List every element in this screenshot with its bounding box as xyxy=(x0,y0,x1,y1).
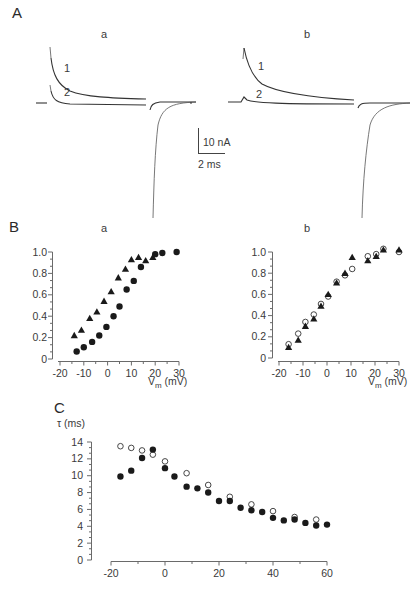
y-tick-label: 8 xyxy=(77,486,83,498)
trace-a-tail-small xyxy=(150,102,196,110)
x-tick-label: -10 xyxy=(295,367,310,379)
data-point-triangle xyxy=(71,332,78,338)
y-tick-label: 10 xyxy=(71,469,83,481)
x-tick-label: 0 xyxy=(324,367,330,379)
subpanel-label-b: b xyxy=(304,222,310,234)
subpanel-label-a: a xyxy=(101,28,108,40)
data-point-triangle xyxy=(325,291,332,297)
y-tick-label: 6 xyxy=(77,503,83,515)
data-point-filled-circle xyxy=(248,507,254,513)
data-point-triangle xyxy=(395,246,402,252)
data-point-filled-circle xyxy=(128,467,134,473)
data-point-filled-circle xyxy=(281,517,287,523)
data-point-filled-circle xyxy=(138,264,144,270)
data-point-filled-circle xyxy=(171,473,177,479)
panel-c: C 02468101214-200204060τ (ms) xyxy=(54,399,333,579)
data-point-filled-circle xyxy=(103,324,109,330)
data-point-open-circle xyxy=(295,331,301,337)
panel-letter-c: C xyxy=(54,399,65,416)
data-point-filled-circle xyxy=(89,339,95,345)
y-tick-label: 0 xyxy=(260,352,266,364)
trace-label-2: 2 xyxy=(256,88,262,100)
figure: A a b 1 2 10 nA 2 ms xyxy=(0,0,419,590)
subpanel-label-b: b xyxy=(304,28,310,40)
trace-a-tail-large xyxy=(153,102,196,218)
data-point-filled-circle xyxy=(291,516,297,522)
data-point-filled-circle xyxy=(302,520,308,526)
data-point-triangle xyxy=(128,256,135,262)
data-point-triangle xyxy=(122,266,129,272)
data-point-open-circle xyxy=(128,445,134,451)
y-tick-label: 14 xyxy=(71,436,83,448)
data-point-triangle xyxy=(86,315,93,321)
scale-bar-time-label: 2 ms xyxy=(198,158,221,170)
y-tick-label: 0.4 xyxy=(251,309,266,321)
x-tick-label: 40 xyxy=(267,567,279,579)
trace-b-tail-large xyxy=(362,103,410,218)
scale-bar: 10 nA 2 ms xyxy=(198,128,230,170)
panel-b: B a b 00.20.40.60.81.0-20-100102030Vm (m… xyxy=(9,218,407,390)
data-point-triangle xyxy=(100,298,107,304)
data-point-filled-circle xyxy=(237,505,243,511)
x-tick-label: 20 xyxy=(213,567,225,579)
data-point-filled-circle xyxy=(117,473,123,479)
data-point-open-circle xyxy=(162,459,168,465)
y-tick-label: 0 xyxy=(77,554,83,566)
x-axis-label: Vm (mV) xyxy=(148,375,187,390)
series-triangles xyxy=(285,246,403,350)
data-point-filled-circle xyxy=(259,509,265,515)
data-point-filled-circle xyxy=(131,278,137,284)
x-tick-label: 10 xyxy=(345,367,357,379)
y-tick-label: 0.4 xyxy=(32,310,47,322)
data-point-filled-circle xyxy=(96,332,102,338)
trace-label-2: 2 xyxy=(64,86,70,98)
data-point-filled-circle xyxy=(183,483,189,489)
x-axis-label: Vm (mV) xyxy=(368,375,407,390)
data-point-triangle xyxy=(295,336,302,342)
data-point-triangle xyxy=(115,274,122,280)
data-point-triangle xyxy=(108,288,115,294)
data-point-open-circle xyxy=(270,508,276,514)
data-point-filled-circle xyxy=(216,498,222,504)
trace-label-1: 1 xyxy=(64,62,70,74)
chart-c: 02468101214-200204060τ (ms) xyxy=(57,417,333,579)
y-tick-label: 0.8 xyxy=(32,267,47,279)
data-point-filled-circle xyxy=(150,446,156,452)
series-circles xyxy=(73,249,179,355)
data-point-filled-circle xyxy=(227,498,233,504)
traces-a: 1 2 xyxy=(36,47,196,218)
data-point-open-circle xyxy=(349,266,355,272)
y-tick-label: 0.6 xyxy=(251,288,266,300)
y-tick-label: 2 xyxy=(77,537,83,549)
x-tick-label: -20 xyxy=(103,567,118,579)
x-tick-label: -20 xyxy=(52,367,67,379)
data-point-filled-circle xyxy=(159,250,165,256)
x-tick-label: 0 xyxy=(162,567,168,579)
data-point-open-circle xyxy=(184,470,190,476)
x-tick-label: 10 xyxy=(126,367,138,379)
y-tick-label: 12 xyxy=(71,452,83,464)
data-point-filled-circle xyxy=(123,286,129,292)
data-point-filled-circle xyxy=(324,521,330,527)
scale-bar-current-label: 10 nA xyxy=(203,136,230,148)
series-filled-circles xyxy=(117,446,330,528)
data-point-open-circle xyxy=(313,517,319,523)
panel-letter-a: A xyxy=(12,4,22,21)
data-point-open-circle xyxy=(139,448,145,454)
data-point-filled-circle xyxy=(205,489,211,495)
y-tick-label: 0 xyxy=(41,353,47,365)
data-point-triangle xyxy=(93,308,100,314)
y-tick-label: 0.2 xyxy=(32,331,47,343)
trace-a1-onset xyxy=(50,47,51,58)
traces-b: 1 2 xyxy=(190,48,410,218)
data-point-filled-circle xyxy=(73,348,79,354)
y-tick-label: 0.8 xyxy=(251,267,266,279)
trace-a2-onset xyxy=(50,85,51,91)
data-point-open-circle xyxy=(118,443,124,449)
data-point-filled-circle xyxy=(173,249,179,255)
data-point-filled-circle xyxy=(139,455,145,461)
y-tick-label: 0.6 xyxy=(32,288,47,300)
chart-bb: 00.20.40.60.81.0-20-100102030Vm (mV) xyxy=(251,246,407,391)
subpanel-label-a: a xyxy=(101,222,108,234)
x-tick-label: -10 xyxy=(76,367,91,379)
